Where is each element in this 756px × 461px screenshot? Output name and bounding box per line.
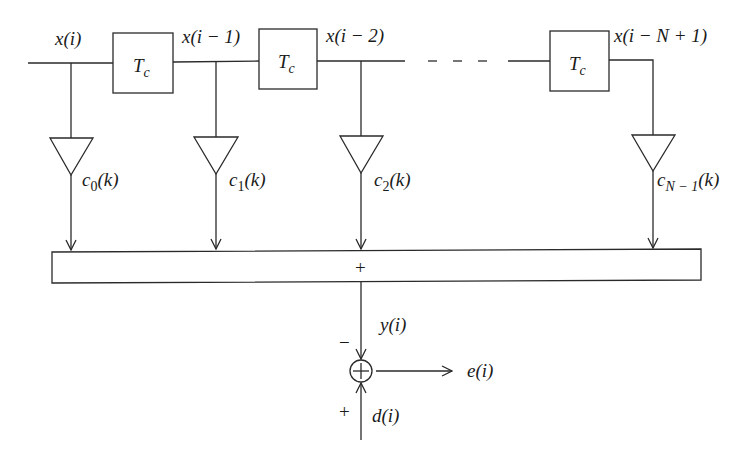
coef-N-1: cN − 1(k)	[657, 169, 719, 194]
summer-block: +	[52, 249, 701, 283]
tap-N-1: cN − 1(k)	[632, 135, 719, 248]
signal-xN: x(i − N + 1)	[613, 25, 707, 47]
desired-d: d(i)	[372, 405, 399, 427]
delay-block-2: Tc	[259, 29, 317, 89]
tap-0: c0(k)	[50, 63, 119, 250]
error-e: e(i)	[467, 360, 493, 382]
wire-last-tap	[609, 60, 653, 138]
signal-x1: x(i − 1)	[181, 26, 240, 48]
minus-sign: −	[339, 332, 350, 353]
output-y: y(i)	[378, 314, 406, 336]
comparator	[350, 360, 372, 382]
gain-triangle-2	[340, 136, 383, 173]
gain-triangle-N-1	[632, 135, 675, 171]
signal-x0: x(i)	[54, 28, 81, 50]
summer-plus: +	[355, 257, 366, 278]
delay-block-3: Tc	[550, 31, 609, 91]
delay-block-1: Tc	[113, 33, 173, 93]
adaptive-filter-diagram: Tc Tc Tc x(i) x(i − 1) x(i − 2) x(i − N …	[0, 0, 756, 461]
wire-1-2	[173, 61, 259, 62]
coef-1: c1(k)	[229, 169, 266, 194]
signal-x2: x(i − 2)	[325, 25, 384, 47]
tap-2: c2(k)	[340, 61, 411, 249]
tap-1: c1(k)	[194, 62, 266, 249]
coef-0: c0(k)	[82, 169, 119, 194]
plus-sign: +	[339, 401, 350, 422]
coef-2: c2(k)	[374, 169, 411, 194]
